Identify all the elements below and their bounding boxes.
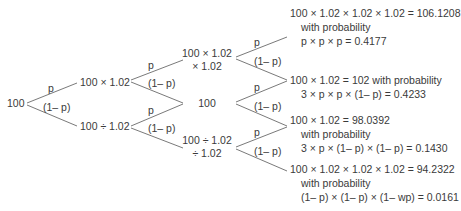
branch-label-1-minus-p: (1– p) bbox=[254, 55, 281, 67]
node-l2-mid: 100 bbox=[182, 97, 232, 109]
outcome-3-value: 100 × 1.02 = 98.0392 bbox=[290, 114, 448, 126]
branch-label-1-minus-p: (1– p) bbox=[148, 77, 175, 89]
outcome-2-value: 100 × 1.02 = 102 with probability bbox=[290, 74, 442, 86]
node-l1-up: 100 × 1.02 bbox=[80, 76, 130, 88]
branch-label-p: p bbox=[148, 104, 154, 116]
outcome-4-value: 100 × 1.02 × 1.02 × 1.02 = 94.2322 bbox=[290, 163, 459, 175]
outcome-4-caption: with probability bbox=[290, 177, 459, 189]
branch-label-p: p bbox=[254, 36, 260, 48]
branch-label-p: p bbox=[48, 82, 54, 94]
node-l2-downdown: 100 ÷ 1.02 ÷ 1.02 bbox=[182, 134, 232, 159]
node-l2-upup-line2: × 1.02 bbox=[182, 60, 232, 72]
branch-l2bot-up bbox=[236, 127, 287, 147]
node-l2-upup-line1: 100 × 1.02 bbox=[182, 47, 232, 59]
branch-label-p: p bbox=[148, 59, 154, 71]
outcome-1-value: 100 × 1.02 × 1.02 × 1.02 = 106.1208 bbox=[290, 7, 461, 19]
outcome-4: 100 × 1.02 × 1.02 × 1.02 = 94.2322 with … bbox=[290, 163, 459, 203]
node-root: 100 bbox=[7, 97, 25, 109]
branch-label-p: p bbox=[254, 81, 260, 93]
branch-label-1-minus-p: (1– p) bbox=[148, 122, 175, 134]
outcome-3-caption: with probability bbox=[290, 128, 448, 140]
branch-label-p: p bbox=[254, 126, 260, 138]
node-l2-downdown-line1: 100 ÷ 1.02 bbox=[182, 134, 232, 146]
branch-label-1-minus-p: (1– p) bbox=[43, 101, 70, 113]
outcome-1-caption: with probability bbox=[290, 21, 461, 33]
outcome-2: 100 × 1.02 = 102 with probability 3 × p … bbox=[290, 74, 442, 100]
outcome-3: 100 × 1.02 = 98.0392 with probability 3 … bbox=[290, 114, 448, 154]
outcome-2-probability: 3 × p × p × (1– p) = 0.4233 bbox=[290, 88, 442, 100]
node-l2-upup: 100 × 1.02 × 1.02 bbox=[182, 47, 232, 72]
branch-l2top-up bbox=[236, 37, 287, 57]
branch-label-1-minus-p: (1– p) bbox=[254, 145, 281, 157]
branch-l2mid-up bbox=[236, 81, 287, 102]
outcome-4-probability: (1– p) × (1– p) × (1– wp) = 0.0161 bbox=[290, 191, 459, 203]
node-l1-down: 100 ÷ 1.02 bbox=[80, 120, 130, 132]
outcome-1: 100 × 1.02 × 1.02 × 1.02 = 106.1208 with… bbox=[290, 7, 461, 47]
outcome-3-probability: 3 × p × (1– p) × (1– p) = 0.1430 bbox=[290, 142, 448, 154]
node-l2-downdown-line2: ÷ 1.02 bbox=[182, 147, 232, 159]
outcome-1-probability: p × p × p = 0.4177 bbox=[290, 35, 461, 47]
branch-label-1-minus-p: (1– p) bbox=[254, 100, 281, 112]
